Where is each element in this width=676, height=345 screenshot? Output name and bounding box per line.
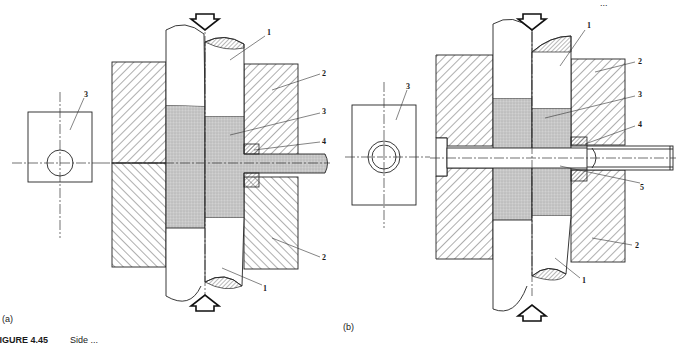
- insert-upper-a: [244, 144, 259, 154]
- callout-billet-a: 3: [322, 107, 326, 116]
- callout-die-top-a: 2: [322, 69, 326, 78]
- callout-punch-bottom-b: 1: [582, 276, 586, 285]
- figure-caption-text: Side ...: [70, 335, 98, 345]
- insert-upper-b: [571, 137, 587, 146]
- billet-left-a: [166, 105, 205, 228]
- callout-insert-a: 4: [322, 137, 326, 146]
- callout-punch-top-b: 1: [587, 21, 591, 30]
- die-lower-right-b: [571, 170, 625, 262]
- callout-punch-bottom-a: 1: [263, 284, 267, 293]
- punch-lower-left-a: [166, 228, 201, 301]
- die-lower-left-b: [436, 168, 493, 259]
- callout-punch-top-a: 1: [267, 28, 271, 37]
- punch-lower-right-b: [532, 216, 571, 276]
- punch-lower-right-a: [205, 218, 244, 286]
- panel-a: 3 1 2 3 4: [2, 14, 330, 324]
- force-arrow-up-a: [191, 295, 219, 311]
- force-arrow-up-b: [518, 305, 546, 321]
- callout-die-bottom-b: 2: [635, 241, 639, 250]
- panel-b: 3: [343, 14, 676, 332]
- punch-upper-section-b: [532, 36, 571, 52]
- side-extrusion-diagram: ... 3: [0, 0, 676, 345]
- leader-plan-a: [70, 98, 84, 130]
- die-upper-right-b: [571, 59, 625, 145]
- page-header-fragment: ...: [600, 0, 608, 8]
- callout-insert-b: 4: [638, 120, 642, 129]
- punch-upper-left-b: [493, 19, 532, 98]
- callout-mandrel-b: 5: [640, 183, 644, 192]
- die-upper-left-a: [112, 62, 166, 163]
- callout-plan-view-b: 3: [406, 82, 410, 91]
- callout-plan-view-a: 3: [84, 90, 88, 99]
- die-lower-left-a: [112, 163, 166, 267]
- plan-view-b: 3: [345, 82, 430, 228]
- mandrel-head-b: [436, 138, 447, 176]
- punch-lower-left-b: [493, 220, 527, 311]
- sublabel-b: (b): [343, 322, 354, 332]
- die-upper-left-b: [436, 55, 493, 146]
- die-lower-right-a: [244, 177, 298, 269]
- punch-upper-left-a: [166, 25, 205, 106]
- insert-lower-a: [244, 173, 259, 187]
- plan-view-a: 3: [12, 90, 100, 238]
- callout-die-top-b: 2: [638, 57, 642, 66]
- callout-die-bottom-a: 2: [322, 253, 326, 262]
- insert-lower-b: [571, 170, 587, 181]
- sublabel-a: (a): [2, 314, 13, 324]
- callout-billet-b: 3: [638, 90, 642, 99]
- figure-caption-number: FIGURE 4.45: [0, 335, 48, 345]
